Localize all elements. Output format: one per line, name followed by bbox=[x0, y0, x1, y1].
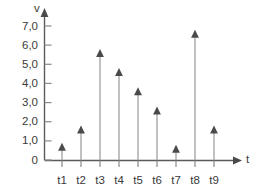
x-tick-label-t9: t9 bbox=[200, 175, 228, 187]
y-tick-label-2: 2,0 bbox=[4, 116, 38, 128]
stem-arrowhead-t4 bbox=[115, 68, 123, 76]
y-tick-label-4: 4,0 bbox=[4, 78, 38, 90]
y-tick-label-3: 3,0 bbox=[4, 97, 38, 109]
y-axis-label: v bbox=[34, 3, 40, 15]
x-axis-ticks bbox=[62, 161, 214, 168]
y-tick-label-1: 1,0 bbox=[4, 135, 38, 147]
y-tick-label-5: 5,0 bbox=[4, 59, 38, 71]
stem-arrowhead-t9 bbox=[210, 126, 218, 134]
chart-plot-area bbox=[0, 0, 261, 194]
stem-arrowhead-t5 bbox=[134, 87, 142, 95]
x-axis-label: t bbox=[246, 154, 249, 166]
y-tick-label-7: 7,0 bbox=[4, 21, 38, 33]
stem-arrowhead-t8 bbox=[191, 30, 199, 38]
stem-chart: 0 1,0 2,0 3,0 4,0 5,0 6,0 7,0 t1 t2 t3 t… bbox=[0, 0, 261, 194]
stem-arrowhead-t7 bbox=[172, 145, 180, 153]
stem-arrowhead-t1 bbox=[58, 143, 66, 151]
y-tick-label-6: 6,0 bbox=[4, 40, 38, 52]
y-axis-arrowhead bbox=[41, 8, 49, 17]
stem-arrowhead-t2 bbox=[77, 126, 85, 134]
stem-arrowhead-t6 bbox=[153, 106, 161, 114]
stem-arrowhead-t3 bbox=[96, 49, 104, 57]
y-axis-ticks bbox=[45, 26, 52, 160]
y-tick-label-0: 0 bbox=[4, 155, 38, 167]
data-stems bbox=[58, 30, 218, 160]
x-axis-arrowhead bbox=[233, 157, 242, 165]
